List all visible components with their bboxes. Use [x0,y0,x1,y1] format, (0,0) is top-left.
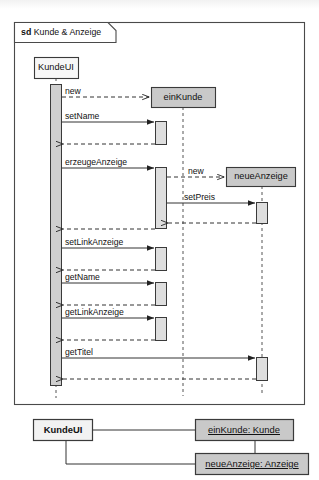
message-label-setpreis[interactable]: setPreis [184,193,215,202]
lifeline-label-kundeui[interactable]: KundeUI [38,63,74,72]
message-label-setname[interactable]: setName [65,112,99,121]
activation-einkunde-getlinkanzeige [156,318,167,341]
activation-einkunde-erzeugeanzeige [156,168,167,229]
lifeline-label-neueanzeige[interactable]: neueAnzeige [234,172,288,181]
screenshot-root: sd Kunde & Anzeige KundeUI einKunde neue… [0,0,319,480]
activation-einkunde-getname [156,283,167,306]
message-label-setlinkanzeige[interactable]: setLinkAnzeige [65,238,123,247]
activation-kundeui [51,85,62,386]
frame-name: Kunde & Anzeige [34,27,102,37]
message-label-getname[interactable]: getName [65,273,100,282]
message-label-getlinkanzeige[interactable]: getLinkAnzeige [65,308,124,317]
object-label-einkunde[interactable]: einKunde: Kunde [208,425,280,434]
frame-keyword: sd [21,27,31,37]
lifeline-label-einkunde[interactable]: einKunde [164,93,203,102]
message-label-new-2[interactable]: new [188,167,204,176]
message-label-new-1[interactable]: new [65,87,81,96]
message-label-erzeugeanzeige[interactable]: erzeugeAnzeige [65,158,127,167]
object-label-kundeui[interactable]: KundeUI [44,425,83,434]
object-label-neueanzeige[interactable]: neueAnzeige: Anzeige [205,459,298,468]
message-label-gettitel[interactable]: getTitel [65,348,93,357]
activation-neueanzeige-gettitel [257,358,268,381]
activation-neueanzeige-setpreis [257,203,268,224]
frame-label: sd Kunde & Anzeige [21,28,101,37]
activation-einkunde-setname [156,122,167,145]
activation-einkunde-setlinkanzeige [156,248,167,271]
